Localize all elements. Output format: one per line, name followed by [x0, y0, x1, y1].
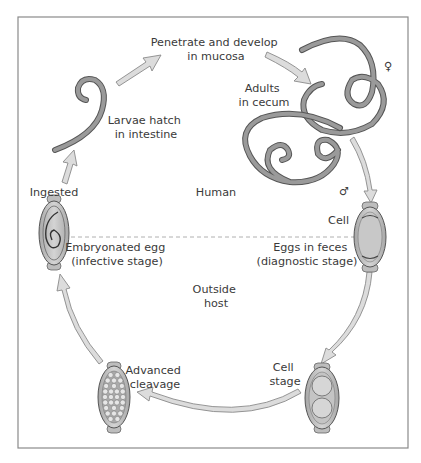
advanced-cleavage-label: Advanced cleavage	[126, 364, 185, 391]
ingested-label: Ingested	[30, 186, 79, 199]
adults-label: Adults in cecum	[239, 82, 290, 109]
larvae-label: Larvae hatch in intestine	[108, 114, 185, 141]
female-symbol-icon: ♀	[384, 60, 392, 73]
region-human-label: Human	[196, 186, 236, 199]
cell-stage-label: Cell stage	[269, 361, 300, 388]
embryonated-label: Embryonated egg (infective stage)	[65, 241, 169, 268]
life-cycle-diagram: Penetrate and develop in mucosa Adults i…	[0, 0, 421, 463]
male-symbol-icon: ♂	[339, 185, 349, 198]
cell-label: Cell	[328, 214, 349, 227]
